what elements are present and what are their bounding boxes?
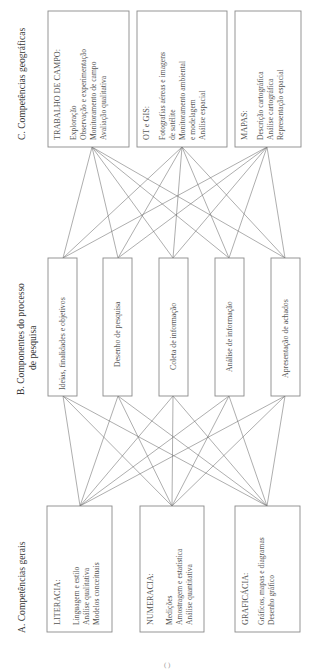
geo-box-mapas: MAPAS: Descrição cartográfica Análise ca… bbox=[235, 11, 301, 147]
research-box-desenho: Desenho de pesquisa bbox=[103, 258, 132, 396]
geo-box-item: Monitoramento de campo bbox=[89, 61, 98, 140]
geo-box-title: MAPAS: bbox=[240, 110, 249, 140]
research-box-ideias: Ideias, finalidades e objetivos bbox=[48, 258, 77, 396]
geo-box-trabalho-de-campo: TRABALHO DE CAMPO: Exploração Observação… bbox=[48, 11, 129, 147]
research-box-label: Ideias, finalidades e objetivos bbox=[58, 297, 67, 390]
geo-box-title: TRABALHO DE CAMPO: bbox=[53, 49, 62, 140]
section-c-label: C. Competências geográficas bbox=[16, 28, 27, 140]
general-box-title: GRAFICÁCIA: bbox=[240, 573, 250, 625]
general-box-item: Gráficos, mapas e diagramas bbox=[257, 537, 266, 625]
geo-box-item: Descrição cartográfica bbox=[256, 71, 265, 140]
geo-box-item: Observação e experimentação bbox=[79, 49, 88, 140]
geo-box-item: Monitoramento ambiental bbox=[178, 61, 187, 140]
section-b-label-line1: B. Componentes do processo bbox=[15, 283, 26, 395]
geo-box-ot-e-gis: OT e GIS: Fotografias aéreas e imagens d… bbox=[137, 11, 227, 147]
general-box-item: Análise quantitativa bbox=[185, 563, 194, 625]
research-box-label: Apresentação de achados bbox=[281, 299, 290, 378]
general-box-item: Análise qualitativa bbox=[82, 567, 91, 625]
general-box-title: LITERACIA: bbox=[53, 580, 62, 625]
research-box-apresentacao: Apresentação de achados bbox=[271, 258, 300, 396]
geo-box-item: e modelagem bbox=[188, 99, 197, 140]
geo-box-item: Exploração bbox=[69, 105, 78, 140]
research-box-label: Desenho de pesquisa bbox=[113, 301, 122, 367]
general-box-item: Modelos conceituais bbox=[92, 562, 101, 625]
geo-box-item: Análise cartográfica bbox=[266, 78, 275, 140]
geo-box-item: Representação espacial bbox=[276, 69, 285, 140]
geo-box-item: Avaliação qualitativa bbox=[99, 75, 108, 140]
geo-box-title: OT e GIS: bbox=[142, 106, 151, 140]
general-box-item: Desenho gráfico bbox=[267, 575, 276, 625]
general-box-title: NUMERACIA: bbox=[146, 573, 155, 625]
connections-c-to-b bbox=[63, 147, 285, 258]
research-box-coleta: Coleta de informação bbox=[159, 258, 188, 396]
general-box-item: Linguagem e estilo bbox=[72, 567, 81, 625]
research-box-label: Análise de informação bbox=[225, 301, 234, 372]
geo-box-item: Análise espacial bbox=[198, 90, 207, 140]
general-box-item: Medições bbox=[165, 595, 174, 625]
connections-b-to-a bbox=[63, 396, 285, 506]
page-marker: ( ) bbox=[164, 661, 171, 669]
research-box-analise: Análise de informação bbox=[215, 258, 244, 396]
research-competences-diagram: C. Competências geográficas B. Component… bbox=[0, 0, 309, 669]
general-box-item: Amostragem e estatística bbox=[175, 548, 184, 625]
geo-box-item: Fotografias aéreas e imagens bbox=[158, 52, 167, 140]
section-b-label-line2: de pesquisa bbox=[27, 325, 38, 370]
general-box-literacia: LITERACIA: Linguagem e estilo Análise qu… bbox=[47, 506, 112, 632]
general-box-graficacia: GRAFICÁCIA: Gráficos, mapas e diagramas … bbox=[235, 506, 300, 632]
research-box-label: Coleta de informação bbox=[169, 303, 178, 370]
section-a-label: A. Competências gerais bbox=[16, 541, 27, 633]
general-box-numeracia: NUMERACIA: Medições Amostragem e estatís… bbox=[140, 506, 204, 632]
geo-box-item: de satélite bbox=[168, 109, 177, 140]
